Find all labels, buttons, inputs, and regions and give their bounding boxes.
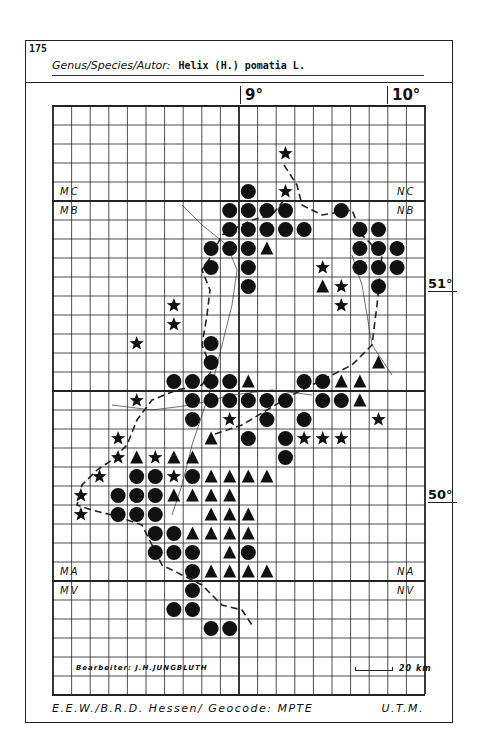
star-marker	[278, 184, 292, 198]
circle-marker	[371, 222, 386, 237]
circle-marker	[185, 393, 200, 408]
star-marker	[167, 317, 181, 331]
zone-label-mv: MV	[60, 585, 79, 596]
circle-marker	[204, 336, 219, 351]
circle-marker	[222, 393, 237, 408]
circle-marker	[185, 583, 200, 598]
circle-marker	[334, 203, 349, 218]
star-marker	[111, 450, 125, 464]
circle-marker	[259, 393, 274, 408]
triangle-marker	[223, 470, 236, 483]
star-marker	[111, 431, 125, 445]
circle-marker	[297, 374, 312, 389]
editor-credit: Bearbeiter: J.H.JUNGBLUTH	[76, 664, 208, 672]
zone-label-mc: MC	[60, 186, 80, 197]
circle-marker	[185, 602, 200, 617]
circle-marker	[297, 412, 312, 427]
star-marker	[316, 260, 330, 274]
triangle-marker	[353, 394, 366, 407]
footer-geocode: E.E.W./B.R.D. Hessen/ Geocode: MPTE	[52, 702, 313, 715]
star-marker	[167, 298, 181, 312]
circle-marker	[241, 431, 256, 446]
longitude-label-10: 10°	[387, 86, 420, 104]
triangle-marker	[335, 375, 348, 388]
triangle-marker	[260, 242, 273, 255]
title-label: Genus/Species/Autor:	[52, 59, 170, 72]
circle-marker	[278, 431, 293, 446]
circle-marker	[204, 393, 219, 408]
star-marker	[297, 431, 311, 445]
circle-marker	[352, 222, 367, 237]
circle-marker	[222, 222, 237, 237]
zone-label-nv: NV	[397, 585, 415, 596]
circle-marker	[278, 450, 293, 465]
triangle-marker	[130, 451, 143, 464]
circle-marker	[185, 545, 200, 560]
circle-marker	[297, 222, 312, 237]
triangle-marker	[205, 527, 218, 540]
circle-marker	[241, 203, 256, 218]
triangle-marker	[186, 451, 199, 464]
circle-marker	[241, 545, 256, 560]
footer-projection: U.T.M.	[382, 702, 424, 715]
star-marker	[74, 488, 88, 502]
circle-marker	[185, 374, 200, 389]
circle-marker	[278, 393, 293, 408]
circle-marker	[315, 393, 330, 408]
circle-marker	[148, 507, 163, 522]
grid-lines	[52, 105, 425, 695]
triangle-marker	[242, 527, 255, 540]
circle-marker	[148, 488, 163, 503]
header-divider	[25, 82, 453, 83]
longitude-label-9: 9°	[240, 86, 263, 104]
circle-marker	[241, 279, 256, 294]
triangle-marker	[205, 508, 218, 521]
species-name: Helix (H.) pomatia L.	[178, 60, 304, 71]
zone-label-ma: MA	[60, 566, 79, 577]
circle-marker	[222, 621, 237, 636]
triangle-marker	[260, 470, 273, 483]
circle-marker	[241, 222, 256, 237]
circle-marker	[204, 241, 219, 256]
triangle-marker	[205, 489, 218, 502]
triangle-marker	[223, 565, 236, 578]
circle-marker	[222, 374, 237, 389]
circle-marker	[241, 393, 256, 408]
circle-marker	[259, 222, 274, 237]
circle-marker	[185, 564, 200, 579]
star-marker	[316, 431, 330, 445]
scale-bar-line	[355, 667, 393, 671]
triangle-marker	[316, 280, 329, 293]
circle-marker	[278, 222, 293, 237]
triangle-marker	[242, 565, 255, 578]
circle-marker	[204, 260, 219, 275]
circle-marker	[129, 469, 144, 484]
circle-marker	[371, 260, 386, 275]
triangle-marker	[205, 470, 218, 483]
circle-marker	[148, 526, 163, 541]
circle-marker	[166, 526, 181, 541]
star-marker	[278, 146, 292, 160]
star-marker	[130, 393, 144, 407]
circle-marker	[166, 545, 181, 560]
circle-marker	[185, 412, 200, 427]
triangle-marker	[223, 546, 236, 559]
latitude-label-51: 51°	[428, 276, 457, 292]
circle-marker	[222, 241, 237, 256]
utm-grid-map	[52, 105, 426, 697]
triangle-marker	[242, 508, 255, 521]
latitude-label-50: 50°	[428, 487, 457, 503]
circle-marker	[204, 374, 219, 389]
star-marker	[334, 431, 348, 445]
star-marker	[148, 450, 162, 464]
circle-marker	[148, 469, 163, 484]
circle-marker	[241, 260, 256, 275]
circle-marker	[352, 260, 367, 275]
circle-marker	[371, 241, 386, 256]
footer: E.E.W./B.R.D. Hessen/ Geocode: MPTE U.T.…	[52, 702, 424, 715]
circle-marker	[259, 412, 274, 427]
triangle-marker	[242, 375, 255, 388]
circle-marker	[111, 488, 126, 503]
star-marker	[92, 469, 106, 483]
circle-marker	[129, 488, 144, 503]
